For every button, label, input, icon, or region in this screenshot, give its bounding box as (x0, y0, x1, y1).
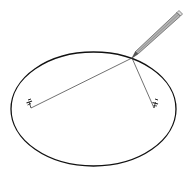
string (31, 58, 154, 108)
ellipse-curve (11, 52, 176, 166)
left-pin-icon (27, 99, 33, 108)
pencil-icon (132, 11, 183, 59)
